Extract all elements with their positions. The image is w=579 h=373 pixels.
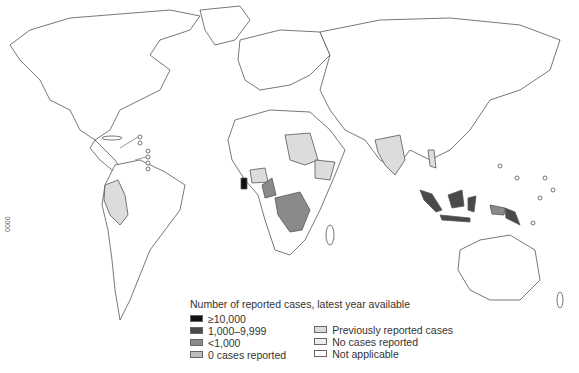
india bbox=[375, 135, 405, 175]
north-america bbox=[10, 10, 200, 140]
pacific-island-marker bbox=[538, 196, 542, 200]
swatch-previously bbox=[314, 326, 327, 333]
new-zealand bbox=[557, 292, 563, 308]
java bbox=[440, 215, 470, 222]
legend-col-right: Previously reported cases No cases repor… bbox=[314, 313, 453, 360]
pacific-island-marker bbox=[551, 188, 555, 192]
legend-item: No cases reported bbox=[314, 336, 453, 347]
legend-col-left: ≥10,000 1,000–9,999 <1,000 0 cases repor… bbox=[190, 313, 286, 360]
west-africa-prev bbox=[250, 168, 268, 183]
pacific-island-marker bbox=[543, 176, 547, 180]
sulawesi bbox=[468, 196, 476, 212]
europe bbox=[238, 30, 330, 90]
asia bbox=[320, 18, 560, 170]
swatch-ge10k bbox=[190, 315, 203, 322]
pacific-island-marker bbox=[498, 164, 502, 168]
figure-code: 0000 bbox=[4, 216, 11, 232]
swatch-lt1k bbox=[190, 339, 203, 346]
cuba bbox=[102, 136, 122, 140]
swatch-1k-9999 bbox=[190, 327, 203, 334]
papua-new-guinea bbox=[505, 208, 520, 225]
legend-item: 0 cases reported bbox=[190, 349, 286, 360]
ghana bbox=[241, 178, 247, 189]
legend-item: Previously reported cases bbox=[314, 324, 453, 335]
pacific-island-marker bbox=[531, 221, 535, 225]
borneo bbox=[448, 190, 464, 208]
legend-item: 1,000–9,999 bbox=[190, 325, 286, 336]
legend-item: ≥10,000 bbox=[190, 313, 286, 324]
legend-title: Number of reported cases, latest year av… bbox=[190, 298, 453, 310]
legend-item: <1,000 bbox=[190, 337, 286, 348]
madagascar bbox=[326, 225, 334, 245]
map-legend: Number of reported cases, latest year av… bbox=[190, 298, 453, 360]
swatch-zero bbox=[190, 351, 203, 358]
australia bbox=[458, 235, 540, 300]
papua-indonesia bbox=[490, 205, 505, 215]
swatch-no-cases bbox=[314, 338, 327, 345]
sumatra bbox=[420, 190, 442, 212]
swatch-not-applicable bbox=[314, 350, 327, 357]
pacific-island-marker bbox=[515, 176, 519, 180]
legend-item: Not applicable bbox=[314, 348, 453, 359]
